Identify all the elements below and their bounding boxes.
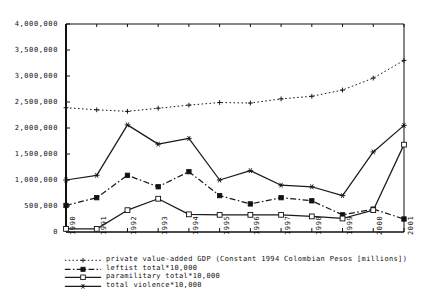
legend-marker-gdp (62, 256, 104, 265)
legend-label-violence: total violence*10,000 (106, 281, 202, 289)
x-axis-tick-label: 1992 (130, 216, 138, 235)
legend-marker-paramilitary (62, 273, 104, 282)
y-axis-tick-label: 3,500,000 (0, 46, 58, 54)
series-violence (63, 122, 407, 198)
x-axis-tick-label: 2000 (376, 216, 384, 235)
x-axis-tick-label: 1998 (315, 216, 323, 235)
legend-label-paramilitary: paramilitary total*10,000 (106, 272, 220, 280)
chart-figure: 0500,0001,000,0001,500,0002,000,0002,500… (0, 0, 428, 301)
y-axis-tick-label: 2,000,000 (0, 124, 58, 132)
plot-frame (66, 24, 404, 232)
legend-marker-leftist (62, 265, 104, 274)
legend-label-gdp: private value-added GDP (Constant 1994 C… (106, 255, 407, 263)
x-axis-tick-label: 1990 (69, 216, 77, 235)
x-axis-tick-label: 1996 (253, 216, 261, 235)
axis-ticks (66, 24, 404, 232)
x-axis-tick-label: 1991 (100, 216, 108, 235)
y-axis-tick-label: 500,000 (0, 202, 58, 210)
series-gdp (64, 58, 407, 114)
legend-marker-violence (62, 282, 104, 291)
series-paramilitary (64, 142, 407, 231)
x-axis-tick-label: 2001 (407, 216, 415, 235)
x-axis-tick-label: 1995 (223, 216, 231, 235)
y-axis-tick-label: 0 (0, 228, 58, 236)
y-axis-tick-label: 3,000,000 (0, 72, 58, 80)
series-layer (63, 58, 407, 231)
x-axis-tick-label: 1993 (161, 216, 169, 235)
x-axis-tick-label: 1997 (284, 216, 292, 235)
legend-item-violence: total violence*10,000 (62, 282, 428, 291)
y-axis-tick-label: 1,000,000 (0, 176, 58, 184)
y-axis-tick-label: 1,500,000 (0, 150, 58, 158)
x-axis-tick-label: 1999 (346, 216, 354, 235)
chart-legend: private value-added GDP (Constant 1994 C… (62, 256, 428, 290)
y-axis-tick-label: 2,500,000 (0, 98, 58, 106)
legend-label-leftist: leftist total*10,000 (106, 264, 197, 272)
x-axis-tick-label: 1994 (192, 216, 200, 235)
y-axis-tick-label: 4,000,000 (0, 20, 58, 28)
